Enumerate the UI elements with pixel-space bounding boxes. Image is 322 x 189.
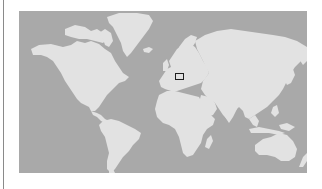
left-divider-line bbox=[3, 0, 4, 189]
world-map-svg bbox=[19, 11, 307, 173]
map-panel bbox=[0, 0, 322, 189]
world-map[interactable] bbox=[19, 11, 307, 173]
